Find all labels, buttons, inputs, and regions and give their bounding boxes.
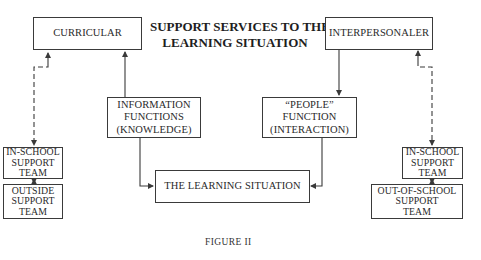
node-label: FUNCTIONS: [124, 111, 184, 124]
node-label: (INTERACTION): [270, 124, 349, 137]
edge-curricular-left-inschool-dashed: [34, 64, 48, 145]
edge-people-to-learning: [311, 137, 322, 186]
node-curricular: CURRICULAR: [33, 17, 142, 50]
node-right-inschool-team: IN-SCHOOL SUPPORT TEAM: [402, 147, 463, 179]
node-label: FUNCTION: [283, 111, 337, 124]
node-left-inschool-team: IN-SCHOOL SUPPORT TEAM: [3, 147, 63, 179]
node-label: TEAM: [418, 168, 446, 179]
edge-interpersonal-right-inschool-dashed: [418, 61, 432, 145]
node-information-functions: INFORMATION FUNCTIONS (KNOWLEDGE): [107, 97, 201, 138]
diagram-title: SUPPORT SERVICES TO THE LEARNING SITUATI…: [150, 19, 320, 51]
node-label: TEAM: [19, 168, 47, 179]
node-label: “PEOPLE”: [285, 99, 334, 112]
node-label: TEAM: [19, 207, 47, 218]
node-label: (KNOWLEDGE): [116, 124, 191, 137]
node-interpersonal: INTERPERSONALER: [325, 17, 433, 50]
figure-caption: FIGURE II: [205, 237, 252, 247]
node-people-function: “PEOPLE” FUNCTION (INTERACTION): [262, 97, 357, 138]
node-out-of-school-team: OUT-OF-SCHOOL SUPPORT TEAM: [371, 184, 463, 219]
title-line-1: SUPPORT SERVICES TO THE: [150, 19, 320, 35]
title-line-2: LEARNING SITUATION: [150, 35, 320, 51]
node-label: CURRICULAR: [53, 27, 122, 40]
node-label: INTERPERSONALER: [329, 27, 429, 40]
node-label: TEAM: [403, 207, 431, 218]
node-outside-team: OUTSIDE SUPPORT TEAM: [3, 184, 63, 219]
node-learning-situation: THE LEARNING SITUATION: [155, 170, 310, 203]
edge-information-to-learning: [140, 137, 153, 186]
node-label: THE LEARNING SITUATION: [164, 180, 300, 193]
node-label: INFORMATION: [117, 99, 190, 112]
